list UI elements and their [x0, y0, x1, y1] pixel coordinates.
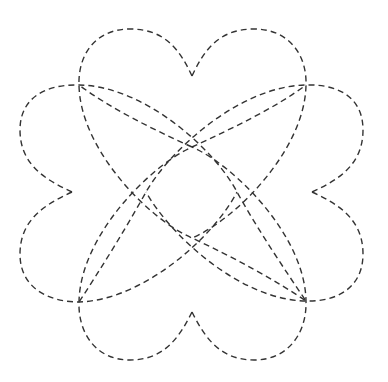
heart-bottom-outline-right	[192, 147, 306, 360]
heart-bottom-outline	[79, 85, 306, 360]
hearts-canvas	[0, 0, 388, 382]
heart-top-outline-right	[192, 29, 306, 238]
hearts-diagram	[0, 0, 388, 382]
heart-top-left-side	[79, 85, 192, 147]
heart-top-outline	[79, 29, 306, 301]
heart-left-outline	[20, 85, 306, 301]
heart-left-outline-lower	[20, 192, 237, 302]
heart-right-outline-lower	[146, 192, 363, 301]
